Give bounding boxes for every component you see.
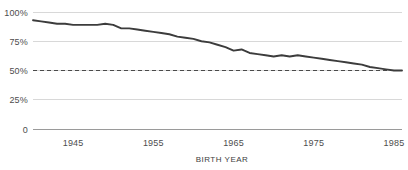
y-tick-label: 25% xyxy=(9,95,28,105)
series-share-earning-more-than-parents xyxy=(33,20,402,70)
x-tick-label: 1985 xyxy=(384,138,405,148)
y-axis-tick-labels: 100%75%50%25%0 xyxy=(4,8,28,135)
x-axis-tick-labels: 19451955196519751985 xyxy=(63,138,405,148)
data-series-group xyxy=(33,20,402,70)
y-tick-label: 75% xyxy=(9,37,28,47)
chart-canvas: 100%75%50%25%0 19451955196519751985 BIRT… xyxy=(0,0,408,170)
line-chart: 100%75%50%25%0 19451955196519751985 BIRT… xyxy=(0,0,408,170)
x-tick-label: 1965 xyxy=(223,138,244,148)
x-tick-label: 1975 xyxy=(303,138,324,148)
x-tick-label: 1945 xyxy=(63,138,84,148)
y-tick-label: 50% xyxy=(9,66,28,76)
x-tick-label: 1955 xyxy=(143,138,164,148)
y-tick-label: 0 xyxy=(23,125,28,135)
x-axis-title: BIRTH YEAR xyxy=(196,155,249,164)
y-tick-label: 100% xyxy=(4,8,28,18)
